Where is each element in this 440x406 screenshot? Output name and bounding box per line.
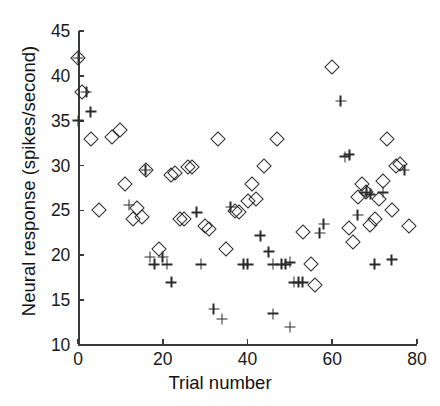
data-point-diamond: [380, 131, 396, 147]
plot-area: [78, 31, 417, 345]
data-point-plus: [81, 87, 92, 98]
data-point-diamond: [308, 277, 324, 293]
data-point-diamond: [341, 221, 357, 237]
data-point-diamond: [295, 224, 311, 240]
x-tick-label: 40: [238, 349, 257, 370]
y-tick-label: 10: [51, 335, 70, 356]
data-point-diamond: [324, 59, 340, 75]
y-tick-label: 15: [51, 290, 70, 311]
data-point-plus: [284, 257, 295, 268]
data-point-plus: [335, 95, 346, 106]
data-point-plus: [365, 189, 376, 200]
data-point-diamond: [117, 176, 133, 192]
y-tick-label: 45: [51, 21, 70, 42]
data-point-diamond: [219, 241, 235, 257]
data-point-plus: [255, 230, 266, 241]
data-point-plus: [166, 277, 177, 288]
data-point-plus: [195, 259, 206, 270]
y-tick-label: 25: [51, 200, 70, 221]
y-tick-label: 35: [51, 110, 70, 131]
data-point-plus: [242, 259, 253, 270]
data-point-plus: [399, 165, 410, 176]
data-point-plus: [352, 209, 363, 220]
y-tick-label: 30: [51, 155, 70, 176]
data-point-diamond: [244, 176, 260, 192]
data-point-plus: [263, 246, 274, 257]
data-point-plus: [267, 308, 278, 319]
data-point-plus: [386, 254, 397, 265]
data-point-plus: [123, 200, 134, 211]
y-tick-label: 40: [51, 65, 70, 86]
x-tick-label: 0: [73, 349, 83, 370]
data-point-diamond: [384, 203, 400, 219]
data-point-diamond: [303, 256, 319, 272]
data-point-plus: [191, 207, 202, 218]
data-point-plus: [369, 259, 380, 270]
x-tick-label: 80: [407, 349, 426, 370]
data-point-plus: [344, 149, 355, 160]
data-point-diamond: [91, 203, 107, 219]
data-point-plus: [140, 165, 151, 176]
scatter-plot-figure: 1015202530354045 020406080 Trial number …: [0, 0, 440, 406]
data-point-diamond: [401, 218, 417, 234]
data-point-plus: [225, 201, 236, 212]
data-point-diamond: [269, 131, 285, 147]
data-point-plus: [297, 277, 308, 288]
y-axis-title: Neural response (spikes/second): [18, 31, 40, 331]
data-point-plus: [85, 106, 96, 117]
data-point-plus: [73, 52, 84, 63]
data-point-plus: [378, 187, 389, 198]
data-point-plus: [284, 322, 295, 333]
data-point-plus: [161, 259, 172, 270]
x-tick-label: 60: [323, 349, 342, 370]
data-point-diamond: [83, 131, 99, 147]
data-point-diamond: [210, 131, 226, 147]
data-point-diamond: [346, 234, 362, 250]
data-point-plus: [73, 115, 84, 126]
data-point-diamond: [257, 158, 273, 174]
y-tick-label: 20: [51, 245, 70, 266]
x-tick-label: 20: [153, 349, 172, 370]
data-point-plus: [318, 218, 329, 229]
data-point-plus: [217, 313, 228, 324]
x-axis-title: Trial number: [0, 372, 440, 394]
